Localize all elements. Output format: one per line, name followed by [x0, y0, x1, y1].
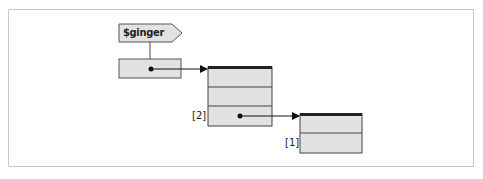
variable-name: $ginger	[123, 26, 164, 39]
index-label: [2]	[192, 110, 206, 121]
inner-array	[300, 113, 362, 153]
reference-diagram	[0, 0, 483, 179]
index-label: [1]	[285, 137, 299, 148]
